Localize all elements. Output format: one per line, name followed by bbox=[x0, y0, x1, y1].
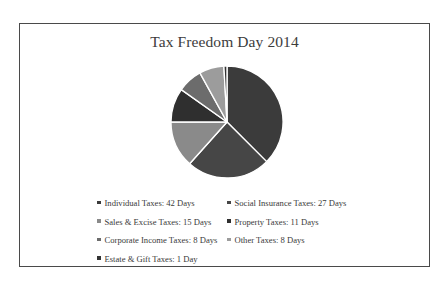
legend-marker-icon bbox=[97, 256, 101, 260]
chart-frame: Tax Freedom Day 2014 Individual Taxes: 4… bbox=[19, 23, 430, 267]
legend-row: Individual Taxes: 42 Days Social Insuran… bbox=[97, 194, 397, 213]
legend-item-estate-gift: Estate & Gift Taxes: 1 Day bbox=[97, 254, 227, 264]
legend-row: Corporate Income Taxes: 8 Days Other Tax… bbox=[97, 231, 397, 250]
chart-title: Tax Freedom Day 2014 bbox=[20, 33, 429, 51]
legend-label: Sales & Excise Taxes: 15 Days bbox=[105, 217, 212, 227]
legend-marker-icon bbox=[97, 238, 101, 242]
legend-item-individual: Individual Taxes: 42 Days bbox=[97, 198, 227, 208]
chart-legend: Individual Taxes: 42 Days Social Insuran… bbox=[97, 194, 397, 268]
legend-label: Individual Taxes: 42 Days bbox=[105, 198, 195, 208]
legend-label: Other Taxes: 8 Days bbox=[235, 235, 305, 245]
legend-marker-icon bbox=[97, 219, 101, 223]
legend-item-property: Property Taxes: 11 Days bbox=[227, 217, 319, 227]
pie-chart bbox=[168, 63, 286, 181]
legend-marker-icon bbox=[227, 219, 231, 223]
legend-label: Corporate Income Taxes: 8 Days bbox=[105, 235, 218, 245]
legend-marker-icon bbox=[227, 201, 231, 205]
legend-marker-icon bbox=[227, 238, 231, 242]
legend-item-sales-excise: Sales & Excise Taxes: 15 Days bbox=[97, 217, 227, 227]
legend-label: Estate & Gift Taxes: 1 Day bbox=[105, 254, 198, 264]
legend-marker-icon bbox=[97, 201, 101, 205]
legend-item-social-insurance: Social Insurance Taxes: 27 Days bbox=[227, 198, 346, 208]
legend-label: Social Insurance Taxes: 27 Days bbox=[235, 198, 347, 208]
legend-row: Sales & Excise Taxes: 15 Days Property T… bbox=[97, 213, 397, 232]
legend-row: Estate & Gift Taxes: 1 Day bbox=[97, 250, 397, 269]
legend-item-corporate-income: Corporate Income Taxes: 8 Days bbox=[97, 235, 227, 245]
legend-label: Property Taxes: 11 Days bbox=[235, 217, 319, 227]
legend-item-other: Other Taxes: 8 Days bbox=[227, 235, 305, 245]
